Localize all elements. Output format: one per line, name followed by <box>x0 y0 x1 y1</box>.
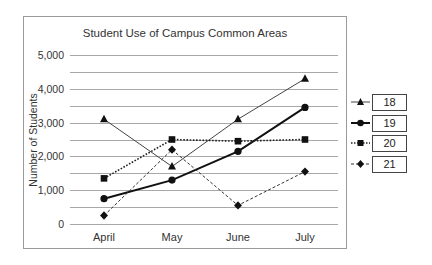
legend-item-21: 21 <box>350 156 410 172</box>
square-marker-icon <box>350 135 372 151</box>
x-tick-label: July <box>295 231 315 243</box>
square-marker-icon <box>169 136 176 143</box>
x-tick-label: May <box>162 231 183 243</box>
y-axis-label: Number of Students <box>27 93 39 186</box>
square-marker-icon <box>302 136 309 143</box>
legend-label: 21 <box>372 156 407 173</box>
chart-frame <box>24 17 347 249</box>
circle-marker-icon <box>350 115 372 131</box>
legend-item-20: 20 <box>350 135 410 151</box>
y-tick-label: 5,000 <box>38 49 64 61</box>
circle-marker-icon <box>100 195 107 202</box>
y-tick-label: 3,000 <box>38 117 64 129</box>
legend-item-19: 19 <box>350 115 410 131</box>
legend-label: 18 <box>372 94 407 111</box>
y-tick-label: 2,000 <box>38 150 64 162</box>
line-chart: Student Use of Campus Common Areas Numbe… <box>0 0 432 265</box>
legend-label: 19 <box>372 115 407 132</box>
legend-item-18: 18 <box>350 94 410 110</box>
x-tick-label: April <box>93 231 115 243</box>
y-tick-label: 1,000 <box>38 184 64 196</box>
square-marker-icon <box>101 175 108 182</box>
square-marker-icon <box>235 138 242 145</box>
legend: 18 19 20 21 <box>350 94 410 176</box>
triangle-marker-icon <box>350 94 372 110</box>
circle-marker-icon <box>234 148 241 155</box>
circle-marker-icon <box>168 176 175 183</box>
chart-title: Student Use of Campus Common Areas <box>83 27 288 39</box>
circle-marker-icon <box>301 104 308 111</box>
y-tick-label: 0 <box>58 218 64 230</box>
y-tick-label: 4,000 <box>38 83 64 95</box>
diamond-marker-icon <box>350 156 372 172</box>
legend-label: 20 <box>372 135 407 152</box>
x-tick-label: June <box>226 231 250 243</box>
